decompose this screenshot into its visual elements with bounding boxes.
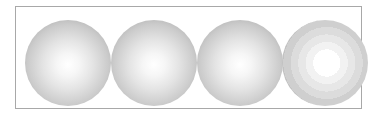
sphere-3-smooth-shading — [197, 20, 283, 106]
figure-frame — [15, 6, 362, 109]
sphere-4-banded-shading — [282, 20, 368, 106]
sphere-1-smooth-shading — [25, 20, 111, 106]
sphere-2-smooth-shading — [111, 20, 197, 106]
